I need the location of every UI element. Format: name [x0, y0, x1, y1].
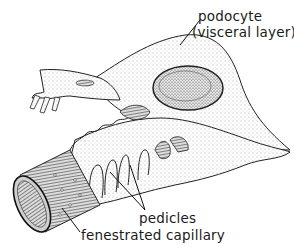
podocyte-diagram: podocyte (visceral layer) pedicles fenes…: [0, 0, 294, 247]
label-pedicles: pedicles: [139, 212, 196, 226]
label-fenestrated-capillary: fenestrated capillary: [81, 229, 225, 243]
label-podocyte: podocyte: [198, 10, 262, 24]
label-visceral-layer: (visceral layer): [192, 26, 294, 40]
